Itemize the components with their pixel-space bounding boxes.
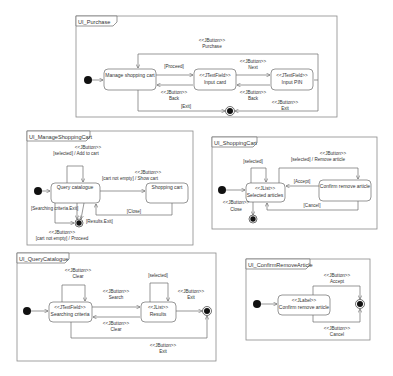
state-label: Input PIN <box>282 79 303 85</box>
transition-label: [Exit] <box>181 104 191 109</box>
transition-label: Next <box>248 65 258 70</box>
state-label: Selected articles <box>247 192 284 198</box>
uml-state-diagrams: UI_Purchase Manage shopping cart <<JText… <box>0 0 393 376</box>
initial-node <box>218 186 226 194</box>
state-label: Confirm remove article <box>279 304 330 310</box>
state-label: Shopping cart <box>152 184 183 190</box>
initial-node <box>253 300 261 308</box>
transition-label: <<JButton>> <box>240 59 267 64</box>
transition-label: Cancel <box>330 332 344 337</box>
transition-label: [Cancel] <box>304 203 321 208</box>
transition-label: <<JButton>> <box>75 145 102 150</box>
transition-label: Close <box>230 207 242 212</box>
stereotype: <<JTextField>> <box>276 73 308 78</box>
state-label: Query catalogue <box>57 184 94 190</box>
initial-node <box>23 307 31 315</box>
transition-label: [Accept] <box>294 179 311 184</box>
transition-label: Search <box>109 295 124 300</box>
transition-label: [cart not empty] / Proceed <box>36 236 89 241</box>
transition-label: <<JButton>> <box>161 90 188 95</box>
transition-label: <<JButton>> <box>49 230 76 235</box>
stereotype: <<JLabel>> <box>292 298 317 303</box>
initial-node <box>84 76 92 84</box>
diagram-ui-purchase: UI_Purchase Manage shopping cart <<JText… <box>76 16 337 117</box>
transition-label: [cart not empty] / Show cart <box>102 176 159 181</box>
transition-label: [Proceed] <box>164 64 184 69</box>
transition-label: <<JButton>> <box>103 289 130 294</box>
transition-label: <<JButton>> <box>178 289 205 294</box>
final-node-core <box>204 308 210 314</box>
diagram-ui-confirm-remove-article: UI_ConfirmRemoveArticle <<JLabel>> Confi… <box>246 259 370 340</box>
transition-label: <<JButton>> <box>272 100 299 105</box>
final-node-core <box>227 108 233 114</box>
transition-label: <<JButton>> <box>199 38 226 43</box>
transition-label: Clear <box>73 274 84 279</box>
final-node-core <box>76 220 81 225</box>
transition-label: [selected] <box>243 159 263 164</box>
diagram-ui-shopping-cart: UI_ShoppingCart [selected] <<JList>> Sel… <box>212 137 377 229</box>
diagram-ui-query-catalogue: UI_QueryCatalogue <<JButton>> Clear <<JT… <box>17 253 216 361</box>
transition-label: [Searching criteria.Exit] <box>31 206 78 211</box>
transition-label: [selected] / Remove article <box>291 157 346 162</box>
transition-label: <<JButton>> <box>103 321 130 326</box>
transition-label: [Results.Exit] <box>86 219 113 224</box>
transition-label: <<JButton>> <box>65 268 92 273</box>
frame-title: UI_ShoppingCart <box>214 140 257 146</box>
stereotype: <<JTextField>> <box>199 73 231 78</box>
frame-title: UI_Purchase <box>78 19 110 25</box>
transition-label: Back <box>169 96 180 101</box>
final-node-core <box>250 216 255 221</box>
frame-title: UI_ConfirmRemoveArticle <box>248 262 313 268</box>
stereotype: <<JList>> <box>255 186 275 191</box>
transition-label: Exit <box>187 295 195 300</box>
transition-label: Exit <box>159 349 167 354</box>
transition-label: <<JButton>> <box>240 90 267 95</box>
transition-label: <<JButton>> <box>320 151 347 156</box>
state-label: Manage shopping cart <box>105 72 155 78</box>
diagram-ui-manage-shopping-cart: UI_ManageShoppingCart <<JButton>> [selec… <box>27 131 193 245</box>
stereotype: <<JTextField>> <box>54 305 86 310</box>
transition-label: <<JButton>> <box>324 326 351 331</box>
transition-label: [Close] <box>127 209 141 214</box>
state-label: Confirm remove article <box>320 183 371 189</box>
final-node-core <box>357 301 363 307</box>
stereotype: <<JList>> <box>148 305 168 310</box>
transition-label: <<JButton>> <box>324 273 351 278</box>
transition-label: Purchase <box>202 44 222 49</box>
frame-title: UI_ManageShoppingCart <box>29 134 93 140</box>
initial-node <box>34 187 42 195</box>
transition-label: <<JButton>> <box>135 170 162 175</box>
transition-label: [selected] <box>148 273 168 278</box>
transition-label: [selected] / Add to cart <box>53 151 99 156</box>
transition-label: Exit <box>281 106 289 111</box>
frame-title: UI_QueryCatalogue <box>19 256 68 262</box>
transition-label: Back <box>248 96 259 101</box>
transition-label: <<JButton>> <box>150 343 177 348</box>
state-label: Results <box>150 311 167 317</box>
transition-label: Accept <box>330 279 345 284</box>
state-label: Input card <box>204 79 226 85</box>
transition-label: <<JButton>> <box>223 200 250 205</box>
state-label: Searching criteria <box>51 311 90 317</box>
transition-label: Clear <box>111 327 122 332</box>
